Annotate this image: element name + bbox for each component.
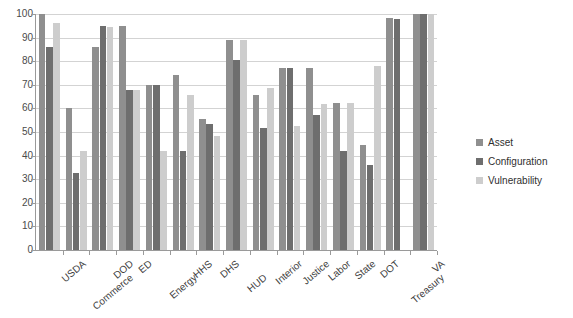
legend-item-configuration[interactable]: Configuration (476, 152, 572, 171)
legend-label: Asset (488, 137, 513, 148)
x-tick-mark (357, 251, 358, 255)
x-tick-label: Treasury (409, 272, 446, 306)
y-tick-label: 100 (3, 9, 33, 19)
x-tick-label: USDA (59, 258, 87, 284)
bar-asset (119, 26, 126, 250)
bar-asset (279, 68, 286, 250)
y-tick-mark (31, 108, 35, 109)
x-tick-mark (437, 251, 438, 255)
bar-group (63, 14, 90, 250)
bar-group (196, 14, 223, 250)
bar-asset (333, 103, 340, 251)
bar-vulnerability (267, 88, 274, 250)
bar-configuration (313, 115, 320, 250)
y-tick-mark (31, 226, 35, 227)
y-tick-mark (31, 156, 35, 157)
legend-swatch-icon (476, 177, 483, 184)
x-tick-label: Energy (167, 272, 198, 301)
bar-configuration (46, 47, 53, 250)
legend-label: Configuration (488, 156, 547, 167)
y-tick-mark (31, 85, 35, 86)
bar-asset (39, 14, 46, 250)
x-tick-mark (303, 251, 304, 255)
bar-asset (66, 108, 73, 250)
x-tick-mark (170, 251, 171, 255)
bar-configuration (233, 60, 240, 250)
bar-asset (146, 85, 153, 250)
bar-asset (386, 18, 393, 250)
bar-asset (306, 68, 313, 250)
bar-group (384, 14, 411, 250)
x-tick-label: VA (430, 258, 447, 275)
x-axis: USDACommerceDODEDEnergyHHSDHSHUDInterior… (0, 250, 573, 318)
x-tick-mark (116, 251, 117, 255)
x-tick-label: ED (136, 258, 154, 275)
x-tick-label: State (352, 258, 377, 281)
bar-vulnerability (428, 14, 435, 250)
bar-configuration (287, 68, 294, 250)
bar-configuration (153, 85, 160, 250)
y-tick-mark (31, 250, 35, 251)
bar-group (143, 14, 170, 250)
bar-configuration (394, 19, 401, 250)
y-tick-label: 20 (3, 198, 33, 208)
y-tick-label: 30 (3, 174, 33, 184)
bar-configuration (180, 151, 187, 250)
bar-vulnerability (133, 90, 140, 250)
bar-vulnerability (240, 40, 247, 250)
y-tick-label: 60 (3, 103, 33, 113)
x-tick-label: Commerce (91, 272, 136, 312)
bar-vulnerability (374, 66, 381, 250)
y-tick-label: 80 (3, 56, 33, 66)
bar-group (330, 14, 357, 250)
legend-swatch-icon (476, 139, 483, 146)
bar-group (410, 14, 437, 250)
bar-vulnerability (187, 95, 194, 250)
x-tick-mark (410, 251, 411, 255)
bar-group (303, 14, 330, 250)
legend-label: Vulnerability (488, 175, 542, 186)
bar-vulnerability (347, 103, 354, 251)
legend-swatch-icon (476, 158, 483, 165)
x-tick-mark (223, 251, 224, 255)
bar-group (170, 14, 197, 250)
y-tick-mark (31, 203, 35, 204)
bar-configuration (126, 90, 133, 250)
bar-configuration (340, 151, 347, 250)
y-tick-label: 70 (3, 80, 33, 90)
bar-asset (173, 75, 180, 250)
chart-legend: AssetConfigurationVulnerability (476, 133, 572, 190)
y-tick-mark (31, 61, 35, 62)
y-tick-mark (31, 132, 35, 133)
x-tick-label: Labor (326, 258, 353, 283)
bar-group (277, 14, 304, 250)
bar-configuration (100, 26, 107, 250)
bar-asset (92, 47, 99, 250)
x-tick-label: HUD (245, 272, 269, 294)
y-tick-label: 50 (3, 127, 33, 137)
bar-asset (226, 40, 233, 250)
bar-group (223, 14, 250, 250)
x-tick-label: Interior (274, 258, 305, 286)
bar-configuration (367, 165, 374, 250)
bar-group (89, 14, 116, 250)
x-tick-mark (196, 251, 197, 255)
legend-item-vulnerability[interactable]: Vulnerability (476, 171, 572, 190)
bar-vulnerability (214, 136, 221, 250)
y-tick-mark (31, 14, 35, 15)
bar-group (250, 14, 277, 250)
legend-item-asset[interactable]: Asset (476, 133, 572, 152)
x-tick-mark (277, 251, 278, 255)
bar-group (357, 14, 384, 250)
bar-configuration (73, 173, 80, 250)
bar-vulnerability (321, 104, 328, 250)
y-tick-mark (31, 38, 35, 39)
bar-configuration (420, 14, 427, 250)
y-tick-mark (31, 179, 35, 180)
bar-asset (360, 145, 367, 250)
x-tick-label: DHS (218, 258, 241, 280)
x-tick-mark (250, 251, 251, 255)
bar-asset (413, 14, 420, 250)
bar-vulnerability (80, 151, 87, 250)
bar-vulnerability (160, 151, 167, 250)
